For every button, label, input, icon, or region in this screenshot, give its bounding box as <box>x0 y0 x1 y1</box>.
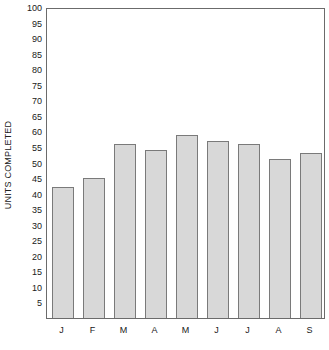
y-tick-label: 85 <box>32 50 42 59</box>
bar <box>238 144 260 318</box>
bar <box>176 135 198 318</box>
y-tick-label: 10 <box>32 283 42 292</box>
y-tick-label: 50 <box>32 159 42 168</box>
y-tick-label: 35 <box>32 206 42 215</box>
y-tick-label: 75 <box>32 81 42 90</box>
x-tick-label: S <box>306 325 312 335</box>
y-tick-label: 80 <box>32 66 42 75</box>
bar <box>300 153 322 318</box>
y-tick-label: 45 <box>32 175 42 184</box>
y-tick-label: 5 <box>37 299 42 308</box>
bar <box>114 144 136 318</box>
y-axis-title: UNITS COMPLETED <box>0 0 16 329</box>
x-axis-tick-labels: JFMAMJJAS <box>46 322 325 342</box>
y-axis-tick-labels: 1009590858075706560555045403530252015105 <box>16 0 44 329</box>
y-tick-label: 30 <box>32 221 42 230</box>
bars-layer <box>47 9 324 318</box>
x-tick-label: J <box>245 325 250 335</box>
x-tick-label: A <box>275 325 281 335</box>
y-tick-label: 25 <box>32 237 42 246</box>
y-tick-label: 70 <box>32 97 42 106</box>
bar <box>145 150 167 318</box>
x-tick-label: F <box>90 325 96 335</box>
x-tick-label: A <box>151 325 157 335</box>
bar-chart: UNITS COMPLETED 100959085807570656055504… <box>0 0 329 350</box>
y-tick-label: 60 <box>32 128 42 137</box>
x-tick-label: J <box>214 325 219 335</box>
y-tick-label: 90 <box>32 35 42 44</box>
y-tick-label: 20 <box>32 252 42 261</box>
x-tick-label: J <box>59 325 64 335</box>
bar <box>207 141 229 318</box>
plot-area <box>46 8 325 319</box>
bar <box>83 178 105 318</box>
y-tick-label: 15 <box>32 268 42 277</box>
x-tick-label: M <box>182 325 190 335</box>
y-tick-label: 55 <box>32 143 42 152</box>
y-tick-label: 95 <box>32 19 42 28</box>
y-tick-label: 65 <box>32 112 42 121</box>
bar <box>52 187 74 318</box>
y-tick-label: 40 <box>32 190 42 199</box>
y-axis-title-label: UNITS COMPLETED <box>3 120 13 209</box>
y-tick-label: 100 <box>27 4 42 13</box>
x-tick-label: M <box>120 325 128 335</box>
bar <box>269 159 291 318</box>
